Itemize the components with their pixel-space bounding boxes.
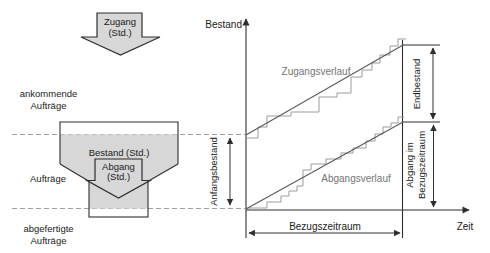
output-step-curve [246,117,404,208]
input-trend-line [246,45,403,135]
input-arrow-label-line2: (Std.) [108,27,131,38]
incoming-orders-label-line1: ankommende [20,88,78,99]
output-in-period-label-line2: Bezugszeitraum [416,131,427,199]
output-curve-label: Abgangsverlauf [321,173,391,184]
diagram-canvas: Zugang (Std.) ankommende Aufträge Bestan… [0,0,490,253]
funnel-model: Zugang (Std.) ankommende Aufträge Bestan… [20,13,178,246]
end-stock-label: Endbestand [411,59,422,110]
x-axis-label: Zeit [457,221,474,232]
output-in-period-label-line1: Abgang im [404,142,415,188]
input-curve-label: Zugangsverlauf [282,66,351,77]
throughput-chart: Bestand Zeit Zugangsverlauf Abgangsverla… [205,19,473,238]
y-axis-label: Bestand [205,19,242,30]
initial-stock-label: Anfangsbestand [208,137,219,206]
throughput-diagram: Zugang (Std.) ankommende Aufträge Bestan… [0,0,490,253]
input-step-curve [246,39,406,138]
initial-stock-annotation: Anfangsbestand [208,137,230,206]
output-arrow-label-line2: (Std.) [107,171,130,182]
reference-period-label: Bezugszeitraum [289,221,361,232]
stock-label: Bestand (Std.) [89,147,150,158]
orders-label: Aufträge [30,173,66,184]
finished-orders-label-line2: Aufträge [31,235,67,246]
input-arrow-label-line1: Zugang [104,16,136,27]
finished-orders-label-line1: abgefertigte [23,223,73,234]
incoming-orders-label-line2: Aufträge [31,100,67,111]
output-trend-line [246,122,403,209]
